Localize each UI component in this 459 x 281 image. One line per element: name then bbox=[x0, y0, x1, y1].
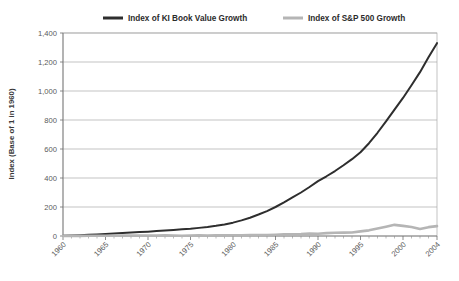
x-tick-label: 1985 bbox=[262, 240, 280, 258]
x-tick-label: 1995 bbox=[347, 240, 365, 258]
y-tick-label: 1,000 bbox=[38, 87, 57, 96]
gridlines-group bbox=[63, 33, 437, 207]
y-tick-label: 600 bbox=[44, 145, 57, 154]
y-tick-label: 200 bbox=[44, 203, 57, 212]
x-tick-label: 2004 bbox=[424, 240, 442, 258]
y-tick-label: 1,400 bbox=[38, 29, 57, 38]
y-tick-label: 400 bbox=[44, 174, 57, 183]
plot-border bbox=[63, 33, 437, 236]
legend-label-2: Index of S&P 500 Growth bbox=[308, 14, 405, 23]
line-chart: 02004006008001,0001,2001,400 19601965197… bbox=[0, 0, 459, 281]
y-tick-label: 1,200 bbox=[38, 58, 57, 67]
y-axis-ticks: 02004006008001,0001,2001,400 bbox=[38, 29, 63, 241]
y-tick-label: 800 bbox=[44, 116, 57, 125]
plot-area-border bbox=[63, 33, 437, 236]
y-axis-title: Index (Base of 1 in 1960) bbox=[7, 88, 16, 179]
x-tick-label: 2000 bbox=[390, 240, 408, 258]
x-axis-ticks: 1960196519701975198019851990199520002004 bbox=[50, 236, 442, 258]
y-tick-label: 0 bbox=[53, 232, 57, 241]
x-tick-label: 1980 bbox=[220, 240, 238, 258]
x-tick-label: 1965 bbox=[92, 240, 110, 258]
x-tick-label: 1975 bbox=[177, 240, 195, 258]
x-tick-label: 1990 bbox=[305, 240, 323, 258]
chart-container: 02004006008001,0001,2001,400 19601965197… bbox=[0, 0, 459, 281]
legend: Index of KI Book Value GrowthIndex of S&… bbox=[103, 14, 405, 23]
x-tick-label: 1970 bbox=[135, 240, 153, 258]
legend-label-1: Index of KI Book Value Growth bbox=[128, 14, 247, 23]
x-tick-label: 1960 bbox=[50, 240, 68, 258]
y-axis-title-group: Index (Base of 1 in 1960) bbox=[7, 88, 16, 179]
